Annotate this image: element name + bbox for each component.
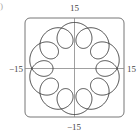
plot-area bbox=[0, 0, 139, 133]
